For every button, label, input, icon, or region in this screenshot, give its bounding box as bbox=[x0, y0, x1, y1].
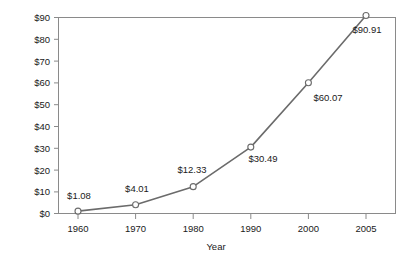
data-point-marker bbox=[305, 80, 311, 86]
data-point-label: $12.33 bbox=[177, 164, 206, 175]
y-tick-label: $40 bbox=[34, 121, 50, 132]
x-tick-label: 1970 bbox=[125, 223, 146, 234]
x-axis-title: Year bbox=[206, 241, 225, 252]
data-point-label: $90.91 bbox=[352, 24, 381, 35]
chart-svg: $90 $80 $70 $60 $50 $40 $30 $20 $10 $0 1… bbox=[0, 0, 412, 261]
data-point-marker bbox=[133, 202, 139, 208]
x-tick-label: 1980 bbox=[183, 223, 204, 234]
data-point-label: $60.07 bbox=[313, 92, 342, 103]
chart-background bbox=[0, 0, 412, 261]
y-tick-label: $0 bbox=[39, 208, 50, 219]
data-point-label: $1.08 bbox=[67, 190, 91, 201]
x-tick-label: 1990 bbox=[240, 223, 261, 234]
data-point-marker bbox=[248, 144, 254, 150]
y-tick-label: $60 bbox=[34, 77, 50, 88]
data-point-label: $4.01 bbox=[125, 183, 149, 194]
x-tick-label: 2005 bbox=[355, 223, 376, 234]
x-tick-label: 2000 bbox=[298, 223, 319, 234]
y-tick-label: $70 bbox=[34, 56, 50, 67]
data-point-marker bbox=[190, 184, 196, 190]
y-tick-label: $30 bbox=[34, 143, 50, 154]
y-tick-label: $20 bbox=[34, 165, 50, 176]
x-tick-label: 1960 bbox=[67, 223, 88, 234]
data-point-marker bbox=[75, 208, 81, 214]
y-tick-label: $80 bbox=[34, 34, 50, 45]
y-tick-label: $90 bbox=[34, 12, 50, 23]
data-point-marker bbox=[363, 13, 369, 19]
line-chart: $90 $80 $70 $60 $50 $40 $30 $20 $10 $0 1… bbox=[0, 0, 412, 261]
data-point-label: $30.49 bbox=[248, 153, 277, 164]
y-tick-label: $10 bbox=[34, 186, 50, 197]
y-tick-label: $50 bbox=[34, 99, 50, 110]
